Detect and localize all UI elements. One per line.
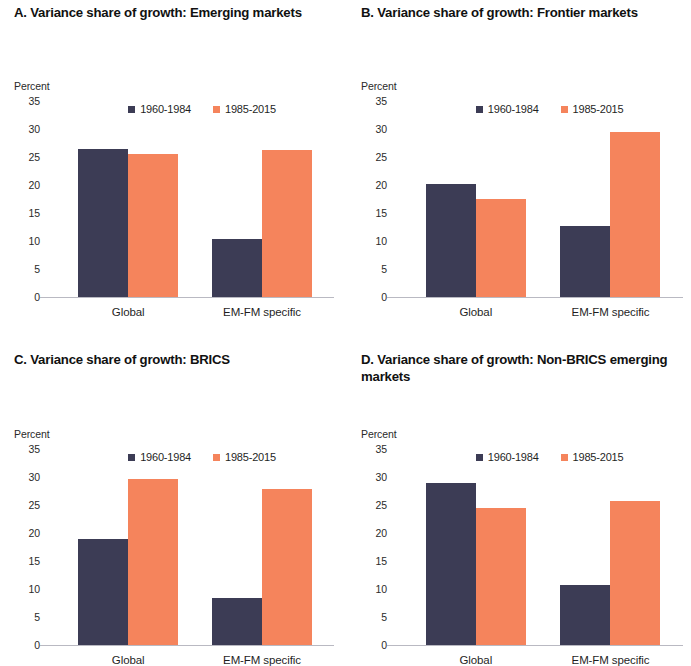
bar-global-1985-2015 — [476, 199, 526, 297]
y-tick-label: 20 — [29, 527, 40, 539]
y-tick-label: 35 — [376, 95, 387, 107]
bars-area — [40, 101, 334, 297]
legend-label: 1960-1984 — [140, 103, 191, 115]
y-axis-ticks: 05101520253035 — [14, 101, 40, 297]
bar-group — [78, 149, 178, 297]
legend-item: 1985-2015 — [561, 451, 624, 463]
legend-label: 1985-2015 — [573, 103, 624, 115]
panel-c: C. Variance share of growth: BRICS Perce… — [0, 333, 345, 666]
x-tick-label: Global — [112, 306, 145, 318]
y-tick-label: 15 — [29, 207, 40, 219]
panel-d-plot: 05101520253035GlobalEM-FM specific1960-1… — [361, 449, 683, 645]
bar-global-1960-1984 — [78, 539, 128, 645]
legend-swatch-icon — [128, 106, 135, 113]
y-tick-label: 15 — [29, 555, 40, 567]
x-tick-label: Global — [459, 654, 492, 666]
legend-label: 1985-2015 — [225, 451, 276, 463]
bar-em-fm-specific-1960-1984 — [212, 598, 262, 645]
panel-b: B. Variance share of growth: Frontier ma… — [345, 0, 691, 333]
panel-c-plot: 05101520253035GlobalEM-FM specific1960-1… — [14, 449, 334, 645]
y-tick-label: 35 — [29, 95, 40, 107]
panel-d-unit-label: Percent — [361, 428, 397, 440]
y-tick-label: 35 — [376, 443, 387, 455]
legend-swatch-icon — [476, 106, 483, 113]
panel-a-plot: 05101520253035GlobalEM-FM specific1960-1… — [14, 101, 334, 297]
y-axis-ticks: 05101520253035 — [14, 449, 40, 645]
bar-group — [212, 150, 312, 297]
bar-em-fm-specific-1960-1984 — [560, 226, 610, 297]
y-tick-label: 15 — [376, 555, 387, 567]
y-tick-label: 10 — [376, 235, 387, 247]
figure-panel-grid: A. Variance share of growth: Emerging ma… — [0, 0, 691, 666]
bar-group — [560, 501, 660, 645]
panel-a: A. Variance share of growth: Emerging ma… — [0, 0, 345, 333]
bar-global-1985-2015 — [128, 479, 178, 645]
y-tick-label: 25 — [29, 151, 40, 163]
bar-group — [426, 184, 526, 297]
bars-area — [387, 449, 683, 645]
legend-swatch-icon — [561, 106, 568, 113]
legend: 1960-19841985-2015 — [128, 103, 276, 115]
panel-b-plot: 05101520253035GlobalEM-FM specific1960-1… — [361, 101, 683, 297]
x-tick-label: EM-FM specific — [223, 654, 301, 666]
bar-global-1985-2015 — [128, 154, 178, 297]
legend-swatch-icon — [213, 454, 220, 461]
legend: 1960-19841985-2015 — [476, 451, 624, 463]
y-tick-label: 20 — [376, 527, 387, 539]
y-tick-label: 25 — [376, 151, 387, 163]
bar-group — [78, 479, 178, 645]
y-tick-label: 30 — [376, 123, 387, 135]
y-tick-label: 15 — [376, 207, 387, 219]
legend-swatch-icon — [128, 454, 135, 461]
y-axis-ticks: 05101520253035 — [361, 449, 387, 645]
legend-swatch-icon — [561, 454, 568, 461]
y-tick-label: 25 — [376, 499, 387, 511]
y-axis-ticks: 05101520253035 — [361, 101, 387, 297]
legend: 1960-19841985-2015 — [476, 103, 624, 115]
legend-item: 1960-1984 — [476, 103, 539, 115]
bars-area — [387, 101, 683, 297]
legend-label: 1985-2015 — [573, 451, 624, 463]
y-tick-label: 20 — [376, 179, 387, 191]
legend-label: 1960-1984 — [140, 451, 191, 463]
legend-swatch-icon — [213, 106, 220, 113]
bar-group — [560, 132, 660, 297]
y-tick-label: 25 — [29, 499, 40, 511]
panel-c-unit-label: Percent — [14, 428, 50, 440]
panel-c-title: C. Variance share of growth: BRICS — [14, 351, 339, 368]
x-axis-line — [40, 297, 334, 298]
bar-em-fm-specific-1960-1984 — [212, 239, 262, 297]
panel-a-title: A. Variance share of growth: Emerging ma… — [14, 4, 339, 21]
x-tick-label: Global — [112, 654, 145, 666]
bar-em-fm-specific-1985-2015 — [610, 132, 660, 297]
bar-em-fm-specific-1985-2015 — [610, 501, 660, 645]
bar-global-1960-1984 — [78, 149, 128, 297]
bars-area — [40, 449, 334, 645]
y-tick-label: 10 — [29, 583, 40, 595]
x-axis-line — [387, 645, 683, 646]
x-tick-label: EM-FM specific — [572, 306, 650, 318]
legend-item: 1985-2015 — [213, 103, 276, 115]
panel-b-unit-label: Percent — [361, 80, 397, 92]
bar-global-1960-1984 — [426, 483, 476, 645]
legend-label: 1985-2015 — [225, 103, 276, 115]
y-tick-label: 30 — [29, 123, 40, 135]
legend: 1960-19841985-2015 — [128, 451, 276, 463]
y-tick-label: 10 — [376, 583, 387, 595]
panel-a-unit-label: Percent — [14, 80, 50, 92]
y-tick-label: 35 — [29, 443, 40, 455]
panel-b-title: B. Variance share of growth: Frontier ma… — [361, 4, 685, 21]
panel-d-title: D. Variance share of growth: Non-BRICS e… — [361, 351, 685, 385]
y-tick-label: 30 — [29, 471, 40, 483]
legend-label: 1960-1984 — [488, 451, 539, 463]
x-axis-line — [387, 297, 683, 298]
bar-em-fm-specific-1985-2015 — [262, 489, 312, 645]
bar-group — [426, 483, 526, 645]
x-tick-label: EM-FM specific — [223, 306, 301, 318]
legend-item: 1960-1984 — [476, 451, 539, 463]
legend-swatch-icon — [476, 454, 483, 461]
legend-item: 1985-2015 — [561, 103, 624, 115]
legend-item: 1985-2015 — [213, 451, 276, 463]
panel-d: D. Variance share of growth: Non-BRICS e… — [345, 333, 691, 666]
x-axis-line — [40, 645, 334, 646]
